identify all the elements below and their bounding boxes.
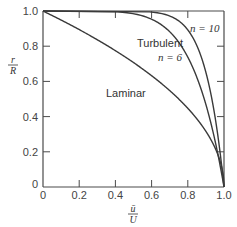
y-axis-numerator: r [11,54,15,65]
n6-label: n = 6 [158,51,182,63]
y-tick-1.0: 1.0 [23,5,38,17]
y-tick-0: 0 [32,178,38,190]
turbulent-n6-curve [43,11,224,187]
x-axis-label: ū U [128,203,138,225]
curves [43,11,224,187]
x-axis-denominator: U [129,214,137,225]
x-tick-0.4: 0.4 [108,189,123,201]
y-tick-0.8: 0.8 [23,40,38,52]
velocity-profile-chart: 1.0 0.8 0.6 0.4 0.2 0 0 0.2 0.4 0.6 0.8 … [0,0,237,227]
laminar-curve [43,11,224,187]
plot-frame [43,11,224,187]
x-tick-0: 0 [40,189,46,201]
x-tick-0.8: 0.8 [180,189,195,201]
y-tick-0.2: 0.2 [23,146,38,158]
y-axis-denominator: R [9,65,16,76]
x-tick-labels: 0 0.2 0.4 0.6 0.8 1.0 [40,189,232,201]
y-tick-labels: 1.0 0.8 0.6 0.4 0.2 0 [23,5,38,190]
x-tick-0.6: 0.6 [144,189,159,201]
axis-ticks [43,11,224,187]
x-tick-1.0: 1.0 [216,189,231,201]
turbulent-n10-curve [43,11,224,187]
y-axis-label: r R [8,54,18,76]
x-tick-0.2: 0.2 [72,189,87,201]
y-tick-0.4: 0.4 [23,111,38,123]
turbulent-label: Turbulent [137,37,183,49]
n10-label: n = 10 [190,22,220,34]
laminar-label: Laminar [106,87,146,99]
x-axis-numerator: ū [131,203,136,214]
y-tick-0.6: 0.6 [23,75,38,87]
